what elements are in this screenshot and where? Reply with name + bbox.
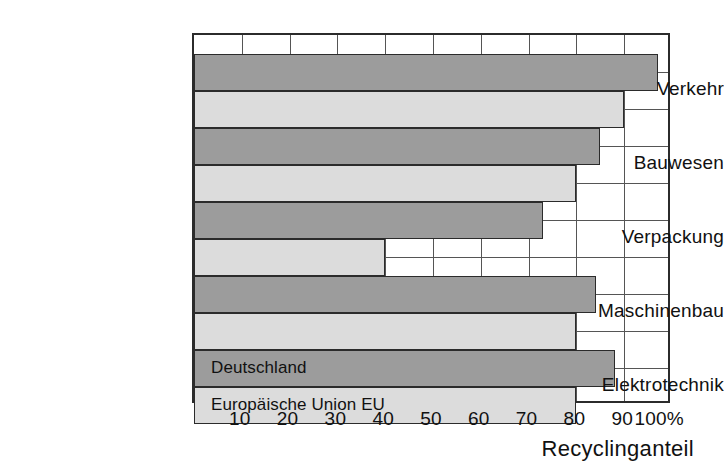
x-tick-label-30: 30 — [325, 408, 347, 430]
x-tick-label-60: 60 — [468, 408, 490, 430]
x-tick-label-90: 90 — [611, 408, 633, 430]
category-label-elektrotechnik: Elektrotechnik — [538, 374, 724, 396]
x-tick-label-50: 50 — [420, 408, 442, 430]
bar-deutschland-maschinenbau — [194, 276, 596, 313]
x-axis-title: Recyclinganteil — [0, 436, 694, 462]
category-label-verkehr: Verkehr — [538, 78, 724, 100]
x-tick-label-10: 10 — [229, 408, 251, 430]
category-label-verpackung: Verpackung — [538, 226, 724, 248]
category-label-maschinenbau: Maschinenbau — [538, 300, 724, 322]
x-tick-label-20: 20 — [277, 408, 299, 430]
bar-eu-bauwesen — [194, 165, 576, 202]
x-tick-label-40: 40 — [372, 408, 394, 430]
bar-eu-verpackung — [194, 239, 385, 276]
legend-label-deutschland: Deutschland — [195, 358, 307, 378]
bar-deutschland-verpackung — [194, 202, 543, 239]
category-label-bauwesen: Bauwesen — [538, 152, 724, 174]
x-tick-label-70: 70 — [516, 408, 538, 430]
bar-eu-maschinenbau — [194, 313, 576, 350]
x-tick-label-100: 100% — [634, 408, 683, 430]
recycling-share-bar-chart: DeutschlandEuropäische Union EU VerkehrB… — [0, 0, 724, 476]
x-tick-label-80: 80 — [564, 408, 586, 430]
